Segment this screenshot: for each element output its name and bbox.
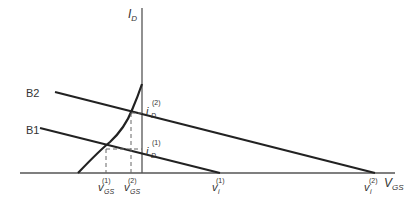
load-line-diagram: ID B2 B1 (2) i D (1) i D (1) v GS (2) v … bbox=[0, 0, 418, 205]
b1-label: B1 bbox=[26, 124, 39, 136]
transfer-curve bbox=[78, 84, 142, 173]
b2-label: B2 bbox=[26, 87, 39, 99]
id1-label: (1) i D bbox=[146, 139, 161, 159]
svg-text:D: D bbox=[151, 152, 156, 159]
x-axis-label: VGS bbox=[384, 176, 404, 192]
svg-text:(2): (2) bbox=[369, 177, 378, 185]
vgs1-label: (1) v GS bbox=[98, 177, 114, 195]
svg-text:i: i bbox=[218, 188, 220, 195]
vi2-label: (2) v i bbox=[364, 177, 378, 195]
svg-text:D: D bbox=[151, 112, 156, 119]
load-line-b1 bbox=[40, 128, 220, 173]
vi1-label: (1) v i bbox=[212, 177, 225, 195]
svg-text:(2): (2) bbox=[152, 99, 161, 107]
svg-text:GS: GS bbox=[104, 188, 114, 195]
svg-text:GS: GS bbox=[130, 188, 140, 195]
y-axis-label: ID bbox=[128, 7, 137, 23]
id2-label: (2) i D bbox=[146, 99, 161, 119]
svg-text:(1): (1) bbox=[152, 139, 161, 147]
load-line-b2 bbox=[55, 92, 375, 173]
svg-text:i: i bbox=[370, 188, 372, 195]
vgs2-label: (2) v GS bbox=[124, 177, 140, 195]
